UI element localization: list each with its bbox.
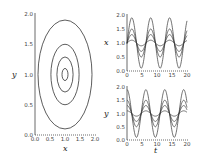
y-tick-label: 0.5 xyxy=(24,102,33,108)
y-tick-label: 2.0 xyxy=(116,12,125,18)
y-tick-label: 1.5 xyxy=(116,97,125,103)
yt-y-ticks: 0.00.51.01.52.0 xyxy=(116,84,125,143)
y-tick-label: 1.5 xyxy=(116,26,125,32)
time-series-curve xyxy=(127,29,187,57)
yt-x-ticks: 05101520 xyxy=(125,141,191,147)
figure: 0.00.51.01.52.0 0.00.51.01.52.0 x y 0.00… xyxy=(0,0,205,158)
x-tick-label: 15 xyxy=(169,72,176,78)
y-tick-label: 2.0 xyxy=(24,11,33,17)
phase-ylabel: y xyxy=(11,70,17,79)
orbit-curve xyxy=(57,57,73,92)
xt-ylabel: x xyxy=(104,38,109,47)
x-tick-label: 5 xyxy=(140,141,144,147)
y-tick-label: 0.0 xyxy=(116,137,125,143)
x-tick-label: 20 xyxy=(184,141,191,147)
phase-orbits xyxy=(38,20,92,129)
phase-x-ticks: 0.00.51.01.52.0 xyxy=(31,136,100,142)
x-time-plot: 0.00.51.01.52.0 05101520 x xyxy=(104,12,191,78)
yt-curves xyxy=(127,90,187,138)
phase-xlabel: x xyxy=(63,144,68,153)
x-tick-label: 0.5 xyxy=(46,136,55,142)
y-tick-label: 1.0 xyxy=(116,111,125,117)
orbit-curve xyxy=(62,68,68,80)
x-tick-label: 10 xyxy=(154,72,161,78)
yt-ylabel: y xyxy=(103,109,109,118)
xt-curves xyxy=(127,18,187,68)
y-tick-label: 1.0 xyxy=(116,40,125,46)
xt-y-ticks: 0.00.51.01.52.0 xyxy=(116,12,125,74)
x-tick-label: 1.0 xyxy=(61,136,70,142)
y-tick-label: 0.5 xyxy=(116,54,125,60)
x-tick-label: 20 xyxy=(184,72,191,78)
phase-plot: 0.00.51.01.52.0 0.00.51.01.52.0 x y xyxy=(11,11,100,153)
xt-x-ticks: 05101520 xyxy=(125,72,191,78)
x-tick-label: 0 xyxy=(125,141,129,147)
y-time-plot: 0.00.51.01.52.0 05101520 t y xyxy=(103,84,191,155)
yt-xlabel: t xyxy=(154,146,158,155)
y-tick-label: 0.5 xyxy=(116,124,125,130)
orbit-curve xyxy=(51,44,79,105)
x-tick-label: 5 xyxy=(140,72,144,78)
x-tick-label: 15 xyxy=(169,141,176,147)
orbit-curve xyxy=(38,20,92,129)
x-tick-label: 0.0 xyxy=(31,136,40,142)
y-tick-label: 1.0 xyxy=(24,72,33,78)
y-tick-label: 2.0 xyxy=(116,84,125,90)
x-tick-label: 0 xyxy=(125,72,129,78)
x-tick-label: 2.0 xyxy=(91,136,100,142)
y-tick-label: 0.0 xyxy=(116,68,125,74)
phase-y-ticks: 0.00.51.01.52.0 xyxy=(24,11,33,138)
y-tick-label: 1.5 xyxy=(24,41,33,47)
time-series-curve xyxy=(127,90,187,138)
x-tick-label: 1.5 xyxy=(76,136,85,142)
